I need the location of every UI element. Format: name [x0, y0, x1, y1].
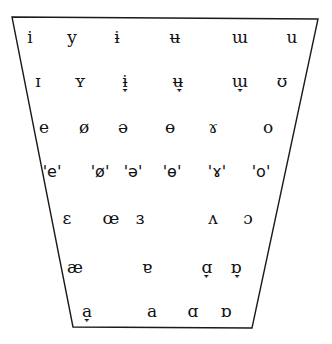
vowel-symbol: ɒ̞ — [231, 259, 242, 276]
vowel-symbol: ɛ — [63, 210, 72, 227]
vowel-symbol: ʉ̞ — [173, 73, 184, 90]
vowel-symbol: ɯ̞ — [232, 73, 248, 90]
vowel-symbol: ɨ — [114, 29, 119, 46]
vowel-symbol: 'ø' — [91, 164, 110, 180]
vowel-symbol: 'ə' — [124, 164, 143, 180]
vowel-symbol: ɯ — [232, 29, 248, 46]
vowel-symbol: ə — [118, 119, 128, 136]
vowel-symbol: ø — [79, 119, 89, 136]
vowel-symbol: i — [27, 29, 32, 46]
vowel-symbol: ɑ — [188, 303, 199, 320]
vowel-symbol: ɒ — [221, 303, 232, 320]
vowel-symbol: ʉ — [170, 29, 181, 46]
vowel-symbol: a̞ — [82, 303, 92, 320]
vowel-symbol: ɑ̞ — [202, 259, 213, 276]
vowel-symbol: ɵ — [165, 119, 175, 136]
vowel-chart: iyɨʉɯuɪʏɨ̞ʉ̞ɯ̞ʊeøəɵɤo'e''ø''ə''ɵ''ɤ''o'ɛ… — [0, 0, 332, 344]
vowel-symbol: 'e' — [43, 164, 62, 180]
vowel-symbol: ɔ — [243, 210, 253, 227]
vowel-symbol: ɪ — [35, 73, 40, 90]
vowel-symbol: æ — [67, 259, 83, 276]
vowel-symbol: 'ɤ' — [208, 164, 226, 180]
vowel-symbol: ɤ — [208, 119, 218, 136]
vowel-symbol: ʊ — [277, 73, 288, 90]
vowel-symbol: ɜ — [136, 210, 145, 227]
vowel-symbol: u — [287, 29, 298, 46]
vowel-symbol: o — [263, 119, 273, 136]
vowel-symbol: e — [39, 119, 49, 136]
vowel-symbol: ɐ — [142, 259, 152, 276]
vowel-symbol: 'o' — [252, 164, 271, 180]
vowel-symbol: ʏ — [74, 73, 85, 90]
vowel-symbol: œ — [103, 210, 120, 227]
vowel-symbol: a — [147, 303, 157, 320]
vowel-symbol: y — [67, 29, 77, 46]
vowel-symbol: 'ɵ' — [163, 164, 182, 180]
vowel-symbol: ʌ — [208, 210, 218, 227]
vowel-symbol: ɨ̞ — [122, 73, 127, 90]
